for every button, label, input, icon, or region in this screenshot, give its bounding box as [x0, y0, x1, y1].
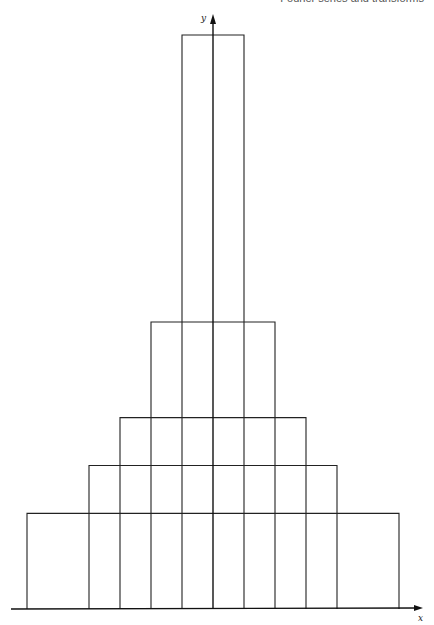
- pulse-chart: x y: [0, 0, 434, 625]
- x-axis: [11, 608, 418, 609]
- x-axis-label: x: [418, 613, 423, 623]
- y-axis-arrow-icon: [210, 14, 216, 24]
- x-axis-arrow-icon: [414, 605, 423, 611]
- y-axis-label: y: [200, 13, 207, 23]
